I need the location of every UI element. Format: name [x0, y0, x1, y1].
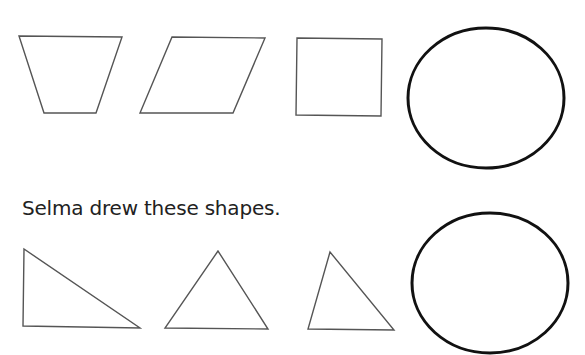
- shapes-canvas: [0, 0, 585, 355]
- trapezoid-shape: [19, 36, 122, 113]
- oval-shape-top: [408, 28, 564, 168]
- right-triangle-shape: [23, 249, 140, 328]
- scalene-triangle-shape: [308, 252, 394, 330]
- oval-shape-bottom: [412, 213, 568, 353]
- caption-text: Selma drew these shapes.: [22, 196, 280, 220]
- square-shape: [296, 38, 382, 116]
- parallelogram-shape: [140, 37, 265, 113]
- triangle-shape: [165, 251, 268, 329]
